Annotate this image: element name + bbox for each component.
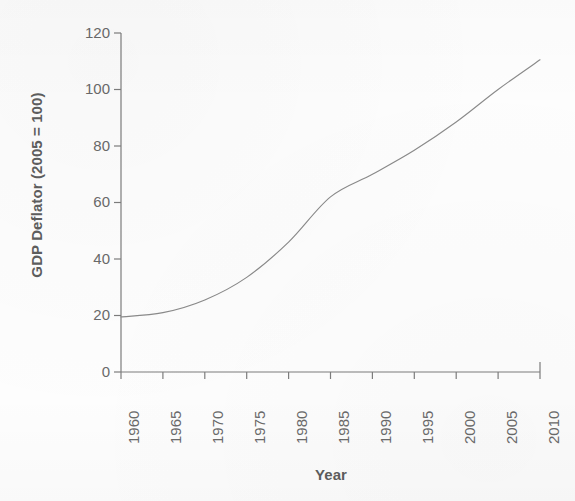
axis-lines [121, 33, 540, 372]
y-axis-ticks [114, 33, 121, 372]
gdp-deflator-line-chart: GDP Deflator (2005 = 100) 120 100 80 60 … [0, 0, 575, 501]
x-axis-ticks [121, 372, 540, 379]
gdp-deflator-series-line [121, 60, 540, 317]
plot-area [0, 0, 575, 501]
